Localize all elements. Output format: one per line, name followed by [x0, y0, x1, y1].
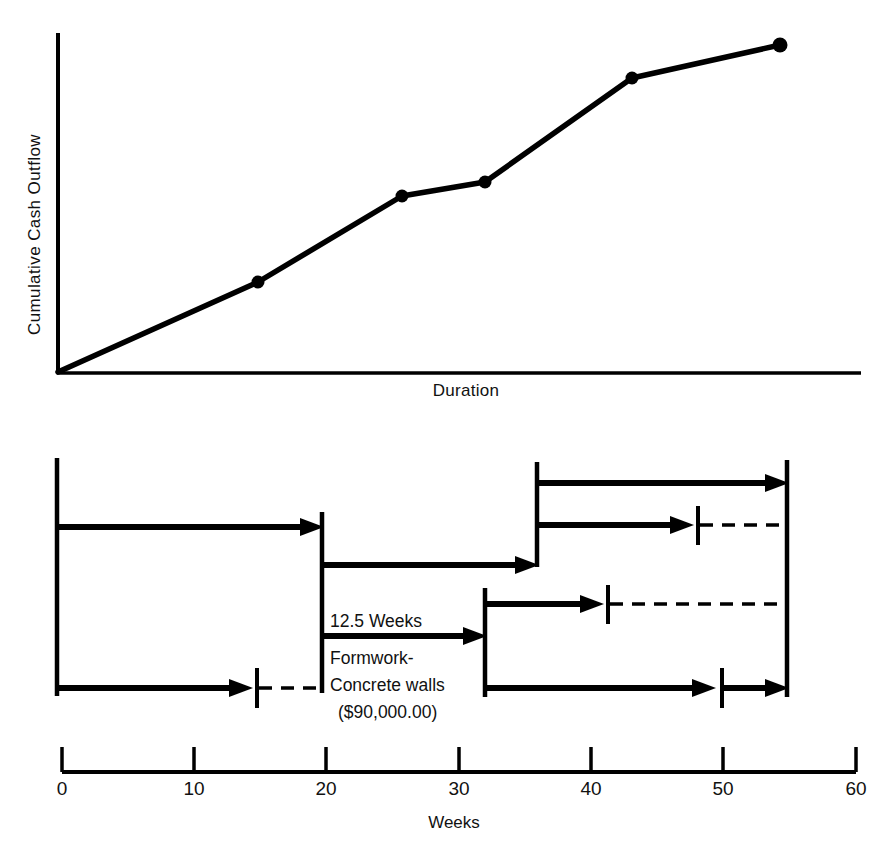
annotation-activity-name-line2: Concrete walls	[330, 675, 445, 695]
weeks-axis-tick-label-40: 40	[580, 778, 601, 799]
annotation-duration: 12.5 Weeks	[330, 611, 422, 631]
activity-arrowhead-g	[580, 595, 604, 613]
weeks-axis-label: Weeks	[428, 813, 480, 832]
weeks-axis-tick-label-0: 0	[57, 778, 68, 799]
figure-root: Cumulative Cash Outflow Duration	[0, 0, 887, 844]
activity-arrowhead-h	[692, 679, 716, 697]
weeks-axis-tick-label-10: 10	[183, 778, 204, 799]
data-point-marker	[626, 72, 639, 85]
top-chart-y-axis-label: Cumulative Cash Outflow	[25, 134, 44, 335]
data-point-marker	[479, 176, 492, 189]
cumulative-cash-outflow-line	[58, 45, 780, 372]
data-point-marker	[773, 38, 788, 53]
annotation-activity-cost: ($90,000.00)	[338, 702, 437, 722]
weeks-axis-tick-label-50: 50	[712, 778, 733, 799]
cumulative-cash-outflow-chart: Cumulative Cash Outflow Duration	[0, 0, 887, 844]
weeks-axis-tick-label-60: 60	[845, 778, 866, 799]
weeks-axis-tick-label-20: 20	[315, 778, 336, 799]
data-point-marker	[396, 190, 409, 203]
activity-arrowhead-b	[229, 679, 253, 697]
top-chart-x-axis-label: Duration	[433, 381, 500, 400]
activity-arrowhead-f	[670, 516, 694, 534]
annotation-activity-name-line1: Formwork-	[330, 648, 414, 668]
data-point-marker	[252, 276, 265, 289]
weeks-axis-tick-label-30: 30	[448, 778, 469, 799]
